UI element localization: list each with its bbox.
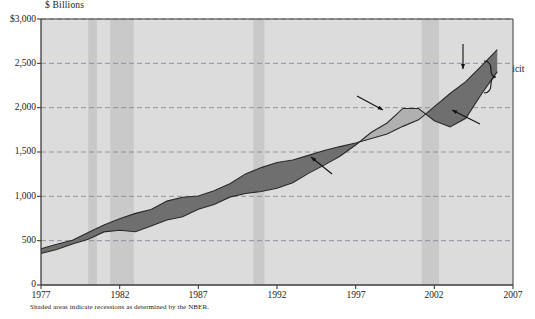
chart-figure: $ Billions $3,000 2,500 2,000 1,500 1,00… xyxy=(0,0,535,319)
chart-plot-svg xyxy=(0,0,535,319)
